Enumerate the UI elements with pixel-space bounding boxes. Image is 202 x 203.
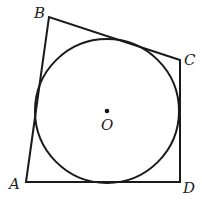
label-c: C bbox=[184, 51, 196, 69]
label-b: B bbox=[33, 4, 45, 22]
center-point bbox=[105, 109, 110, 114]
quadrilateral-abcd bbox=[26, 17, 180, 182]
label-a: A bbox=[7, 175, 20, 193]
label-d: D bbox=[182, 179, 195, 197]
geometry-diagram: O A B C D bbox=[0, 0, 202, 203]
label-o: O bbox=[101, 116, 113, 134]
